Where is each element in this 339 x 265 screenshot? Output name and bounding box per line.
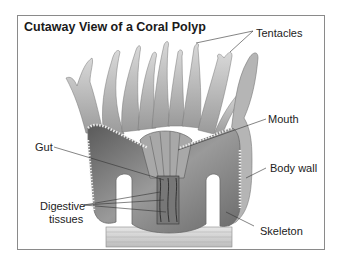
label-skeleton: Skeleton <box>260 225 303 237</box>
label-mouth: Mouth <box>268 113 299 125</box>
label-body-wall: Body wall <box>270 162 317 174</box>
label-digestive-line2: tissues <box>49 213 83 225</box>
label-digestive-line1: Digestive <box>40 200 85 212</box>
tentacles <box>66 42 243 136</box>
diagram-title: Cutaway View of a Coral Polyp <box>24 20 206 34</box>
label-gut: Gut <box>35 141 53 153</box>
label-tentacles: Tentacles <box>256 27 302 39</box>
